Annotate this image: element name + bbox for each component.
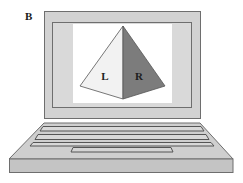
laptop-diagram bbox=[0, 0, 243, 183]
keyboard-row-1 bbox=[40, 127, 204, 132]
keyboard-row-2 bbox=[35, 135, 209, 140]
base-front-edge bbox=[10, 159, 234, 173]
pyramid-left-label: L bbox=[101, 70, 108, 82]
trackpad bbox=[71, 148, 173, 153]
pyramid-right-label: R bbox=[135, 70, 143, 82]
keyboard-row-3 bbox=[30, 143, 214, 147]
laptop-base bbox=[9, 123, 233, 173]
